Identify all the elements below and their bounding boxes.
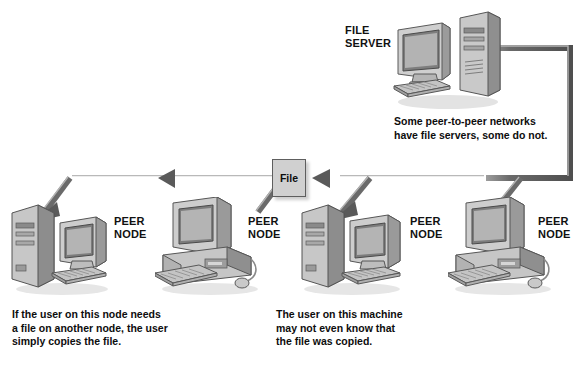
peer-node-1-illustration [8, 197, 112, 297]
file-box-arrowhead [312, 169, 330, 188]
file-server-illustration [392, 6, 504, 110]
peer-node-3-illustration [296, 197, 406, 297]
diagram-canvas: FILE SERVER Some peer-to-peer networks h… [0, 0, 588, 366]
trunk-arrowhead-left [158, 169, 175, 188]
peer-node-2-illustration [155, 197, 265, 297]
peer-node-4-illustration [448, 197, 558, 297]
left-caption: If the user on this node needs a file on… [12, 308, 168, 349]
peer-node-1-label: PEER NODE [114, 215, 147, 240]
file-server-caption: Some peer-to-peer networks have file ser… [394, 115, 547, 142]
right-caption: The user on this machine may not even kn… [276, 308, 403, 349]
peer-node-4-label: PEER NODE [538, 215, 571, 240]
file-object-box[interactable]: File [272, 159, 306, 197]
peer-node-3-label: PEER NODE [410, 215, 443, 240]
peer-node-2-label: PEER NODE [248, 215, 281, 240]
file-server-label: FILE SERVER [345, 24, 391, 49]
